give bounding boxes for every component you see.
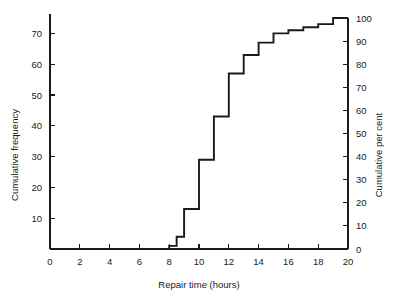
x-tick-label: 10	[194, 256, 205, 267]
x-axis-title: Repair time (hours)	[158, 279, 239, 290]
y-tick-label-left: 40	[31, 120, 42, 131]
y-tick-label-right: 100	[356, 13, 372, 24]
x-tick-label: 4	[107, 256, 112, 267]
y-tick-label-left: 20	[31, 182, 42, 193]
y-tick-label-left: 60	[31, 59, 42, 70]
x-tick-label: 16	[283, 256, 294, 267]
cumulative-frequency-chart: 02468101214161820 10203040506070 0102030…	[0, 0, 396, 302]
y-tick-label-right: 20	[356, 197, 367, 208]
y-tick-label-right: 0	[356, 244, 361, 255]
x-tick-label: 6	[137, 256, 142, 267]
y-tick-label-left: 30	[31, 151, 42, 162]
y-tick-label-right: 70	[356, 82, 367, 93]
x-tick-label: 8	[167, 256, 172, 267]
y-tick-label-left: 10	[31, 213, 42, 224]
y-tick-label-right: 80	[356, 59, 367, 70]
y-tick-label-left: 50	[31, 90, 42, 101]
x-tick-label: 14	[253, 256, 264, 267]
y-tick-label-left: 70	[31, 28, 42, 39]
y-tick-label-right: 30	[356, 174, 367, 185]
x-tick-label: 18	[313, 256, 324, 267]
x-tick-label: 2	[77, 256, 82, 267]
y-tick-label-right: 60	[356, 105, 367, 116]
x-tick-label: 20	[343, 256, 354, 267]
y-axis-right-title: Cumulative per cent	[373, 112, 384, 197]
y-axis-left-title: Cumulative frequency	[9, 109, 20, 201]
x-tick-label: 0	[47, 256, 52, 267]
y-tick-label-right: 90	[356, 36, 367, 47]
y-tick-label-right: 40	[356, 151, 367, 162]
y-tick-label-right: 10	[356, 220, 367, 231]
x-tick-label: 12	[224, 256, 235, 267]
chart-plot-area: 02468101214161820 10203040506070 0102030…	[0, 0, 396, 302]
y-tick-label-right: 50	[356, 128, 367, 139]
